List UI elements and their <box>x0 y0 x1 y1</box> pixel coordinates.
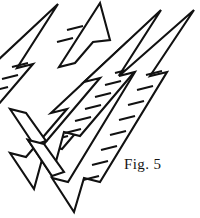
figure-caption: Fig. 5 <box>124 157 161 172</box>
figure-5-drawing: Fig. 5 <box>0 0 200 218</box>
ladder-arrows-illustration <box>0 0 200 218</box>
